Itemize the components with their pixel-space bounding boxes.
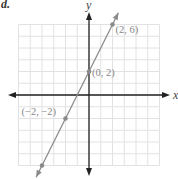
point-label: (−2, −2) <box>22 106 57 118</box>
point-label: (2, 6) <box>116 24 139 36</box>
x-axis-left-arrow-icon <box>8 92 16 98</box>
data-point <box>40 163 45 168</box>
line-arrow-up-icon <box>113 13 119 21</box>
point-labels: (2, 6)(0, 2)(−2, −2) <box>22 24 139 118</box>
data-point <box>63 116 68 121</box>
y-axis-up-arrow-icon <box>86 12 92 20</box>
y-axis-label: y <box>85 0 92 12</box>
point-label: (0, 2) <box>92 67 115 79</box>
x-axis-label: x <box>172 88 178 102</box>
x-axis-right-arrow-icon <box>162 92 170 98</box>
axes: xy <box>8 0 178 176</box>
coordinate-plane: xy (2, 6)(0, 2)(−2, −2) <box>0 0 178 179</box>
data-point <box>87 69 92 74</box>
line-arrow-down-icon <box>36 170 42 178</box>
data-point <box>110 22 115 27</box>
y-axis-down-arrow-icon <box>86 168 92 176</box>
